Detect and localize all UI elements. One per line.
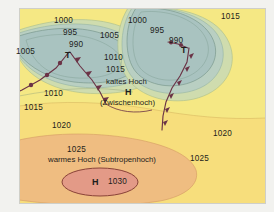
weather-map-figure: 1000 995 990 T 1005 1010 1015 1000 995 9… — [0, 0, 274, 212]
weather-map-canvas — [0, 0, 274, 212]
warm-high-core-ellipse — [62, 168, 138, 196]
map-plot-area — [8, 7, 266, 205]
